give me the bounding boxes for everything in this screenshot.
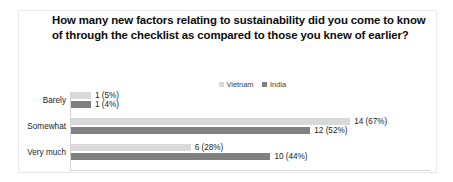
legend-swatch-india (262, 82, 267, 87)
chart-legend: Vietnam India (219, 80, 286, 89)
category-label-very-much: Very much (22, 148, 66, 158)
legend-swatch-vietnam (219, 82, 224, 87)
bar-vietnam-very-much[interactable] (71, 144, 191, 151)
bar-value-vietnam-very-much: 6 (28%) (195, 143, 224, 152)
legend-item-vietnam[interactable]: Vietnam (219, 80, 253, 89)
chart-title: How many new factors relating to sustain… (52, 13, 432, 42)
bar-vietnam-somewhat[interactable] (71, 118, 350, 125)
bar-india-somewhat[interactable] (71, 127, 310, 134)
legend-label-vietnam: Vietnam (227, 80, 254, 89)
bar-value-vietnam-barely: 1 (5%) (95, 91, 119, 100)
bar-value-vietnam-somewhat: 14 (67%) (354, 117, 387, 126)
category-label-barely: Barely (22, 96, 66, 106)
legend-item-india[interactable]: India (262, 80, 286, 89)
bar-india-very-much[interactable] (71, 153, 270, 160)
bar-vietnam-barely[interactable] (71, 92, 91, 99)
bar-value-india-somewhat: 12 (52%) (314, 126, 347, 135)
legend-label-india: India (270, 80, 286, 89)
bar-value-india-very-much: 10 (44%) (274, 152, 307, 161)
category-label-somewhat: Somewhat (22, 122, 66, 132)
x-axis-baseline (70, 170, 430, 171)
bar-india-barely[interactable] (71, 101, 91, 108)
chart-screenshot: How many new factors relating to sustain… (0, 0, 453, 182)
bar-value-india-barely: 1 (4%) (95, 100, 119, 109)
plot-area: Barely 1 (5%) 1 (4%) Somewhat 14 (67%) (22, 92, 434, 172)
